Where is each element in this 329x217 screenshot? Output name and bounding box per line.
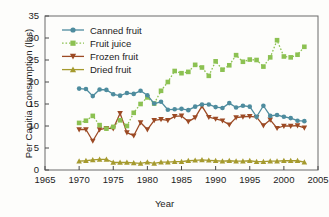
series-point [247,57,252,62]
series-point [172,69,177,74]
x-tick-label: 2000 [273,174,294,185]
legend-swatch-marker [70,41,75,46]
series-point [200,102,205,107]
x-tick-label: 1970 [69,174,90,185]
series-point [261,103,266,108]
series-point [268,114,273,119]
series-point [226,122,232,127]
series-point [302,119,307,124]
line-chart-plot: 0510152025303519651970197519801985199019… [0,0,329,217]
series-point [125,91,130,96]
series-point [288,55,293,60]
series-point [138,102,143,107]
x-tick-label: 1980 [137,174,158,185]
series-point [282,114,287,119]
series-point [200,65,205,70]
series-point [77,121,82,126]
series-point [193,63,198,68]
legend-label: Frozen fruit [90,51,138,62]
series-point [192,115,198,120]
x-tick-label: 1965 [34,174,55,185]
series-point [104,88,109,93]
series-point [295,118,300,123]
series-point [193,104,198,109]
series-point [241,103,246,108]
y-tick-label: 20 [28,76,39,87]
series-point [77,86,82,91]
y-tick-label: 15 [28,98,39,109]
series-point [275,38,280,43]
series-point [97,87,102,92]
y-tick-label: 10 [28,120,39,131]
series-point [220,118,226,123]
x-tick-label: 1990 [205,174,226,185]
series-point [295,52,300,57]
series-point [131,133,137,138]
series-point [166,80,171,85]
series-point [268,55,273,60]
series-point [179,107,184,112]
x-tick-label: 1995 [239,174,260,185]
series-point [254,114,259,119]
x-tick-label: 1975 [103,174,124,185]
series-frozen-fruit [76,104,307,144]
series-point [84,87,89,92]
y-tick-label: 30 [28,32,39,43]
y-tick-label: 5 [34,142,39,153]
y-tick-label: 25 [28,54,39,65]
series-point [234,53,239,58]
series-point [118,93,123,98]
series-point [90,114,95,119]
series-line [79,106,304,141]
series-point [186,108,191,113]
series-point [302,125,308,130]
series-point [261,123,267,128]
series-point [288,116,293,121]
series-point [172,107,177,112]
series-point [159,100,164,105]
series-point [104,126,109,131]
series-point [213,59,218,64]
series-point [241,59,246,64]
series-point [145,159,151,164]
x-tick-label: 2005 [307,174,328,185]
series-point [274,126,280,131]
y-tick-label: 35 [28,10,39,21]
series-point [145,93,150,98]
series-point [90,94,95,99]
series-point [111,125,116,130]
series-point [227,63,232,68]
chart-figure: Per Capitia Consumption (lbs) Year 05101… [0,0,329,217]
series-point [118,118,123,123]
series-point [234,105,239,110]
series-point [227,101,232,106]
series-point [97,123,102,128]
series-point [131,92,136,97]
legend-swatch-marker [70,27,75,32]
legend-label: Dried fruit [90,64,132,75]
series-point [159,89,164,94]
series-point [186,70,191,75]
legend-label: Canned fruit [90,25,142,36]
chart-legend: Canned fruitFruit juiceFrozen fruitDried… [62,25,142,76]
series-point [213,105,218,110]
series-point [166,107,171,112]
series-point [282,54,287,59]
series-point [275,113,280,118]
series-point [84,118,89,123]
series-point [90,139,96,144]
series-dried-fruit [76,157,307,166]
series-point [254,58,259,63]
series-point [145,127,151,132]
series-point [131,111,136,116]
series-point [247,104,252,109]
series-point [302,45,307,50]
series-point [138,89,143,94]
series-point [207,102,212,107]
series-point [220,106,225,111]
series-point [207,74,212,79]
series-point [261,64,266,69]
series-point [179,71,184,76]
x-tick-label: 1985 [171,174,192,185]
series-point [111,92,116,97]
